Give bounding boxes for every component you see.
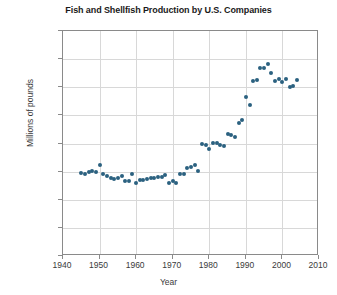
data-point bbox=[248, 103, 252, 107]
y-tick-mark bbox=[58, 30, 62, 31]
x-axis-label: Year bbox=[0, 277, 337, 287]
gridline-horizontal bbox=[63, 228, 317, 229]
x-tick-label: 1990 bbox=[225, 260, 265, 270]
data-point bbox=[94, 170, 98, 174]
data-point bbox=[130, 172, 134, 176]
y-tick-mark bbox=[58, 171, 62, 172]
data-point bbox=[237, 121, 241, 125]
y-axis-label: Millions of pounds bbox=[25, 53, 35, 173]
data-point bbox=[244, 95, 248, 99]
x-tick-label: 1980 bbox=[188, 260, 228, 270]
x-tick-mark bbox=[318, 255, 319, 259]
data-point bbox=[280, 80, 284, 84]
x-tick-mark bbox=[62, 255, 63, 259]
data-point bbox=[193, 163, 197, 167]
data-point bbox=[98, 163, 102, 167]
gridline-horizontal bbox=[63, 200, 317, 201]
data-point bbox=[266, 62, 270, 66]
y-tick-mark bbox=[58, 58, 62, 59]
y-tick-mark bbox=[58, 199, 62, 200]
gridline-vertical bbox=[100, 31, 101, 254]
x-tick-mark bbox=[281, 255, 282, 259]
gridline-vertical bbox=[173, 31, 174, 254]
x-tick-mark bbox=[99, 255, 100, 259]
data-point bbox=[163, 173, 167, 177]
x-tick-mark bbox=[208, 255, 209, 259]
y-tick-mark bbox=[58, 114, 62, 115]
data-point bbox=[120, 174, 124, 178]
data-point bbox=[233, 135, 237, 139]
data-point bbox=[134, 181, 138, 185]
data-point bbox=[196, 169, 200, 173]
data-point bbox=[262, 66, 266, 70]
y-tick-mark bbox=[58, 143, 62, 144]
gridline-horizontal bbox=[63, 144, 317, 145]
x-tick-mark bbox=[135, 255, 136, 259]
y-tick-mark bbox=[58, 86, 62, 87]
scatter-chart-figure: Fish and Shellfish Production by U.S. Co… bbox=[0, 0, 337, 295]
x-tick-label: 2000 bbox=[261, 260, 301, 270]
x-tick-label: 1950 bbox=[79, 260, 119, 270]
gridline-horizontal bbox=[63, 59, 317, 60]
x-tick-mark bbox=[172, 255, 173, 259]
x-tick-label: 1960 bbox=[115, 260, 155, 270]
x-tick-mark bbox=[245, 255, 246, 259]
data-point bbox=[269, 71, 273, 75]
plot-area bbox=[62, 30, 318, 255]
chart-title: Fish and Shellfish Production by U.S. Co… bbox=[0, 5, 337, 15]
data-point bbox=[240, 118, 244, 122]
data-point bbox=[284, 77, 288, 81]
gridline-vertical bbox=[136, 31, 137, 254]
x-tick-label: 1940 bbox=[42, 260, 82, 270]
gridline-vertical bbox=[246, 31, 247, 254]
x-tick-label: 2010 bbox=[298, 260, 337, 270]
data-point bbox=[207, 147, 211, 151]
gridline-vertical bbox=[282, 31, 283, 254]
data-point bbox=[127, 179, 131, 183]
data-point bbox=[222, 144, 226, 148]
data-point bbox=[174, 181, 178, 185]
data-point bbox=[295, 78, 299, 82]
gridline-horizontal bbox=[63, 115, 317, 116]
data-point bbox=[255, 78, 259, 82]
data-point bbox=[182, 172, 186, 176]
y-tick-mark bbox=[58, 227, 62, 228]
x-tick-label: 1970 bbox=[152, 260, 192, 270]
gridline-horizontal bbox=[63, 87, 317, 88]
